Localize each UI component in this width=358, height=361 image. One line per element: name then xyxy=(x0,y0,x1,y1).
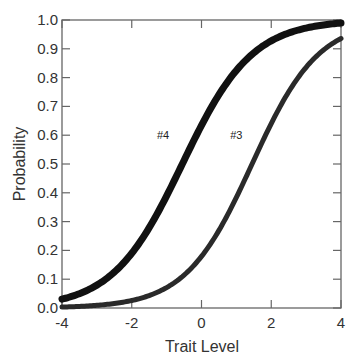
plot-frame xyxy=(62,20,341,308)
y-tick-label: 0.3 xyxy=(37,213,58,230)
x-tick-label: -4 xyxy=(55,314,68,331)
y-tick-label: 0.1 xyxy=(37,270,58,287)
y-tick-label: 0.8 xyxy=(37,69,58,86)
y-tick-label: 0.5 xyxy=(37,155,58,172)
y-tick-label: 0.2 xyxy=(37,241,58,258)
curve-item-3 xyxy=(62,39,341,308)
curves xyxy=(62,23,341,307)
y-tick-label: 0.7 xyxy=(37,97,58,114)
curve-label: #4 xyxy=(157,129,169,141)
x-tick-label: -2 xyxy=(125,314,138,331)
y-axis-label: Probability xyxy=(11,127,28,202)
item-characteristic-curves-chart: 0.00.10.20.30.40.50.60.70.80.91.0 -4-202… xyxy=(0,0,358,361)
x-tick-label: 2 xyxy=(267,314,275,331)
y-tick-label: 0.4 xyxy=(37,184,58,201)
x-tick-label: 0 xyxy=(197,314,205,331)
y-tick-label: 1.0 xyxy=(37,11,58,28)
x-tick-label: 4 xyxy=(337,314,345,331)
curve-label: #3 xyxy=(230,129,242,141)
x-axis-label: Trait Level xyxy=(165,338,239,355)
y-tick-label: 0.6 xyxy=(37,126,58,143)
y-tick-label: 0.9 xyxy=(37,40,58,57)
